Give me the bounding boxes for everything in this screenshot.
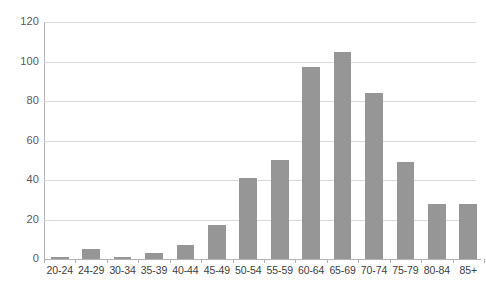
bar-50-54[interactable] xyxy=(239,178,257,259)
x-tick xyxy=(107,259,108,263)
bar-45-49[interactable] xyxy=(208,225,226,259)
bar-80-84[interactable] xyxy=(428,204,446,259)
x-label-60-64: 60-64 xyxy=(295,264,326,276)
plot-area xyxy=(44,22,484,259)
x-label-50-54: 50-54 xyxy=(233,264,264,276)
x-label-24-29: 24-29 xyxy=(75,264,106,276)
bar-65-69[interactable] xyxy=(334,52,352,259)
bar-slot xyxy=(295,22,326,259)
bar-slot xyxy=(327,22,358,259)
bar-35-39[interactable] xyxy=(145,253,163,259)
y-tick-label-60: 60 xyxy=(0,135,39,146)
bar-70-74[interactable] xyxy=(365,93,383,259)
bar-slot xyxy=(390,22,421,259)
bar-slot xyxy=(201,22,232,259)
bar-slot xyxy=(170,22,201,259)
x-tick xyxy=(453,259,454,263)
x-label-45-49: 45-49 xyxy=(201,264,232,276)
x-tick xyxy=(484,259,485,263)
x-tick xyxy=(138,259,139,263)
bar-24-29[interactable] xyxy=(82,249,100,259)
x-tick xyxy=(295,259,296,263)
x-tick xyxy=(421,259,422,263)
y-tick-label-80: 80 xyxy=(0,95,39,106)
bar-slot xyxy=(264,22,295,259)
gridline-0 xyxy=(44,259,481,260)
bars-layer xyxy=(44,22,484,259)
y-tick-label-20: 20 xyxy=(0,214,39,225)
x-label-30-34: 30-34 xyxy=(107,264,138,276)
x-label-65-69: 65-69 xyxy=(327,264,358,276)
x-label-20-24: 20-24 xyxy=(44,264,75,276)
bar-slot xyxy=(107,22,138,259)
bar-slot xyxy=(138,22,169,259)
y-tick-label-40: 40 xyxy=(0,174,39,185)
bar-slot xyxy=(421,22,452,259)
x-label-35-39: 35-39 xyxy=(138,264,169,276)
bar-slot xyxy=(233,22,264,259)
bar-20-24[interactable] xyxy=(51,257,69,259)
y-tick-label-120: 120 xyxy=(0,16,39,27)
bar-slot xyxy=(453,22,484,259)
x-label-80-84: 80-84 xyxy=(421,264,452,276)
bar-55-59[interactable] xyxy=(271,160,289,259)
y-tick-label-0: 0 xyxy=(0,253,39,264)
bar-85+[interactable] xyxy=(459,204,477,259)
bar-slot xyxy=(75,22,106,259)
x-label-75-79: 75-79 xyxy=(390,264,421,276)
bar-slot xyxy=(44,22,75,259)
x-tick xyxy=(264,259,265,263)
x-tick xyxy=(75,259,76,263)
bar-75-79[interactable] xyxy=(397,162,415,259)
x-tick xyxy=(201,259,202,263)
bar-30-34[interactable] xyxy=(114,257,132,259)
y-tick-label-100: 100 xyxy=(0,56,39,67)
bar-60-64[interactable] xyxy=(302,67,320,259)
x-label-70-74: 70-74 xyxy=(358,264,389,276)
x-tick xyxy=(327,259,328,263)
x-tick xyxy=(233,259,234,263)
bar-chart: 020406080100120 20-2424-2930-3435-3940-4… xyxy=(0,0,486,292)
x-tick xyxy=(390,259,391,263)
x-tick xyxy=(358,259,359,263)
bar-40-44[interactable] xyxy=(177,245,195,259)
x-tick xyxy=(44,259,45,263)
x-label-40-44: 40-44 xyxy=(170,264,201,276)
bar-slot xyxy=(358,22,389,259)
x-label-55-59: 55-59 xyxy=(264,264,295,276)
x-label-85+: 85+ xyxy=(453,264,484,276)
x-tick xyxy=(170,259,171,263)
